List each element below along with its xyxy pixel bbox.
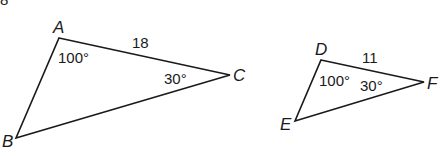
cropped-fragment: 8 [0, 0, 8, 8]
triangle-abc [16, 38, 230, 138]
angle-d-measure: 100° [319, 72, 350, 89]
angle-c-measure: 30° [164, 70, 187, 87]
side-ac-length: 18 [132, 34, 149, 51]
similar-triangles-diagram: 8 A B C 18 100° 30° D E F 11 100° 30° [0, 0, 448, 156]
vertex-label-d: D [315, 40, 327, 59]
vertex-label-a: A [52, 18, 64, 37]
angle-f-measure: 30° [360, 77, 383, 94]
vertex-label-b: B [2, 132, 13, 151]
side-df-length: 11 [362, 49, 378, 66]
vertex-label-e: E [280, 115, 292, 134]
vertex-label-c: C [233, 66, 246, 85]
vertex-label-f: F [427, 74, 439, 93]
angle-a-measure: 100° [58, 49, 89, 66]
